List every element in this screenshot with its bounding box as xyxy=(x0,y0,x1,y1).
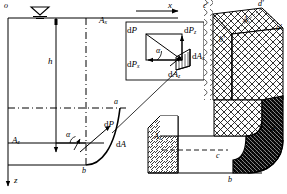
solid-lower-ax-label: Ax xyxy=(154,133,161,142)
area-ax-label: Ax xyxy=(99,16,107,26)
vertex-c-prime-label: c′ xyxy=(203,2,208,10)
vertex-d-prime-label: d′ xyxy=(258,0,264,8)
vertex-b-lower-label: b xyxy=(228,176,232,184)
detail-daz-label: dAz xyxy=(168,70,180,80)
point-b-label: b xyxy=(82,167,86,175)
vertex-a-prime-label: a′ xyxy=(276,24,282,32)
point-a-label: a xyxy=(114,98,118,106)
alpha-arc xyxy=(70,137,76,144)
vertex-a-lower-label: a xyxy=(271,125,275,133)
hydrostatic-pressure-figure: o x z h Ax Az a b dP dA α dP dPz dPx α d… xyxy=(0,0,287,194)
x-axis-label: x xyxy=(168,1,172,10)
detail-dp-label: dP xyxy=(127,26,137,35)
curved-surface-ab xyxy=(86,108,120,165)
solid-lower-top-strip xyxy=(160,116,178,136)
solid-lower-group xyxy=(148,96,283,173)
depth-top-tick xyxy=(55,19,58,25)
vertex-c-lower-label: c xyxy=(216,152,220,160)
detail-dax-label: dAx xyxy=(192,52,204,62)
alpha-reference-arrow xyxy=(74,139,80,150)
detail-dpx-label: dPx xyxy=(127,60,139,70)
detail-alpha-label: α xyxy=(156,47,160,55)
depth-label: h xyxy=(48,57,53,66)
solid-upper-az-label: Az xyxy=(243,16,250,25)
break-edge-hatch xyxy=(204,0,213,100)
area-az-label: Az xyxy=(12,136,20,146)
plan-da-label: dA xyxy=(116,140,126,149)
solid-lower-rear-band xyxy=(214,100,262,136)
dp-force-arrow xyxy=(80,126,110,152)
figure-canvas xyxy=(0,0,287,194)
z-axis-label: z xyxy=(14,176,18,185)
detail-dpz-label: dPz xyxy=(184,26,196,36)
origin-label: o xyxy=(4,2,8,10)
water-surface-icon xyxy=(28,5,54,19)
vertex-b-prime-label: b′ xyxy=(219,36,225,44)
plan-dp-label: dP xyxy=(104,120,114,129)
solid-right-face xyxy=(232,28,283,100)
plan-alpha-label: α xyxy=(66,131,70,139)
